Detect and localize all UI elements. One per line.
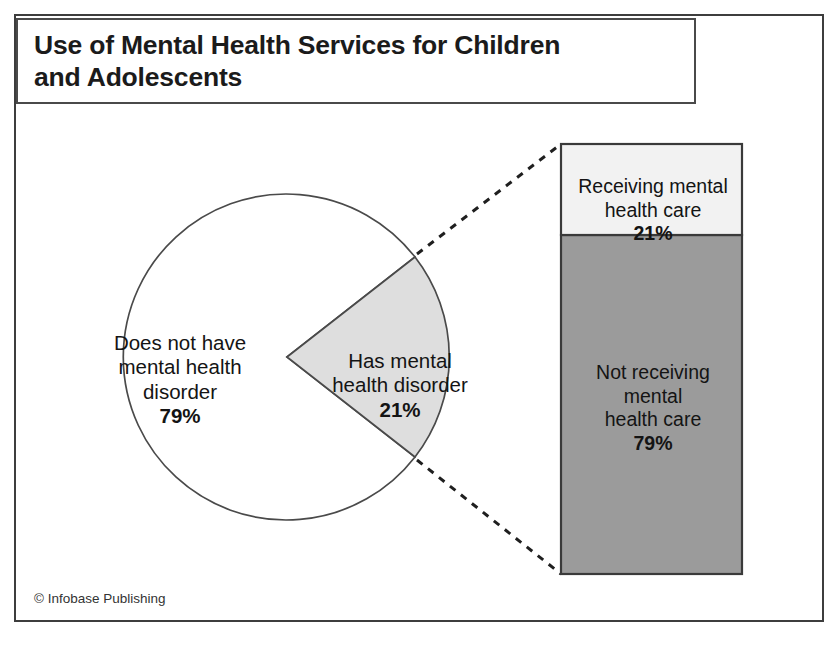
bar-top-segment-text: Receiving mental health care [578,175,728,220]
pie-minor-slice-text: Has mental health disorder [332,349,468,397]
pie-major-slice-text: Does not have mental health disorder [114,331,246,403]
bar-bottom-segment-value: 79% [563,432,743,455]
pie-major-slice-value: 79% [90,404,270,429]
pie-minor-slice-value: 21% [310,398,490,423]
bar-bottom-segment-label: Not receiving mental health care 79% [563,338,743,478]
page-title: Use of Mental Health Services for Childr… [34,29,680,93]
bar-bottom-segment-text: Not receiving mental health care [596,361,710,430]
bar-top-segment-value: 21% [563,222,743,245]
leader-line-bottom [417,460,561,574]
title-box: Use of Mental Health Services for Childr… [16,18,696,104]
bar-top-segment-label: Receiving mental health care 21% [563,152,743,269]
copyright-credit: © Infobase Publishing [34,591,166,606]
plot-area: Does not have mental health disorder 79%… [16,16,822,620]
leader-line-top [417,144,561,254]
pie-major-slice-label: Does not have mental health disorder 79% [90,306,270,454]
pie-minor-slice-label: Has mental health disorder 21% [310,324,490,447]
figure-frame: Does not have mental health disorder 79%… [14,14,824,622]
